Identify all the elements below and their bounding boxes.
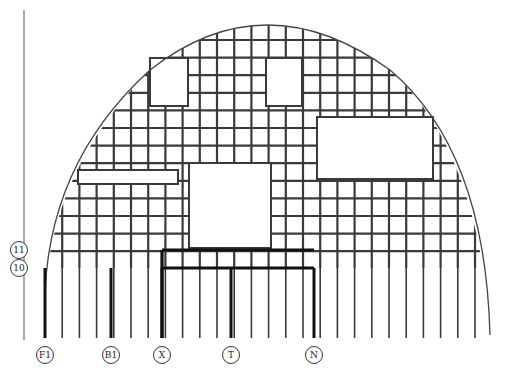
row-axis-label: 10 bbox=[10, 259, 28, 277]
column-axis-label: B1 bbox=[102, 346, 120, 364]
dome-grid-diagram bbox=[0, 0, 508, 378]
right-opening bbox=[317, 117, 433, 179]
column-axis-label: N bbox=[305, 346, 323, 364]
center-opening bbox=[189, 163, 271, 248]
left-slot bbox=[78, 170, 178, 184]
column-axis-label: X bbox=[153, 346, 171, 364]
column-axis-label: T bbox=[222, 346, 240, 364]
column-axis-label: F1 bbox=[36, 346, 54, 364]
upper-mid-opening bbox=[266, 58, 302, 106]
row-axis-label: 11 bbox=[10, 241, 28, 259]
